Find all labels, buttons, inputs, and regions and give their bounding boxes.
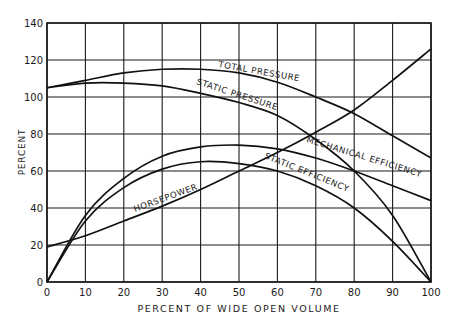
x-tick-label: 0	[44, 287, 50, 298]
y-tick-label: 120	[24, 55, 43, 66]
x-tick-label: 30	[156, 287, 169, 298]
y-axis-label: PERCENT	[17, 129, 27, 176]
y-tick-label: 140	[24, 18, 43, 29]
label-horsepower: HORSEPOWER	[132, 181, 199, 213]
x-tick-label: 20	[117, 287, 130, 298]
x-tick-label: 10	[79, 287, 92, 298]
y-tick-label: 0	[37, 277, 43, 288]
x-tick-label: 80	[348, 287, 361, 298]
x-tick-label: 40	[194, 287, 207, 298]
x-tick-label: 60	[271, 287, 284, 298]
y-tick-label: 20	[30, 240, 43, 251]
x-tick-label: 100	[421, 287, 440, 298]
y-tick-label: 40	[30, 203, 43, 214]
x-tick-label: 70	[309, 287, 322, 298]
x-tick-label: 90	[386, 287, 399, 298]
y-tick-label: 80	[30, 129, 43, 140]
x-axis-ticks: 0102030405060708090100	[44, 287, 441, 298]
y-tick-label: 60	[30, 166, 43, 177]
y-tick-label: 100	[24, 92, 43, 103]
x-axis-label: PERCENT OF WIDE OPEN VOLUME	[137, 303, 340, 314]
x-tick-label: 50	[233, 287, 246, 298]
chart: 0102030405060708090100 02040608010012014…	[0, 0, 457, 327]
